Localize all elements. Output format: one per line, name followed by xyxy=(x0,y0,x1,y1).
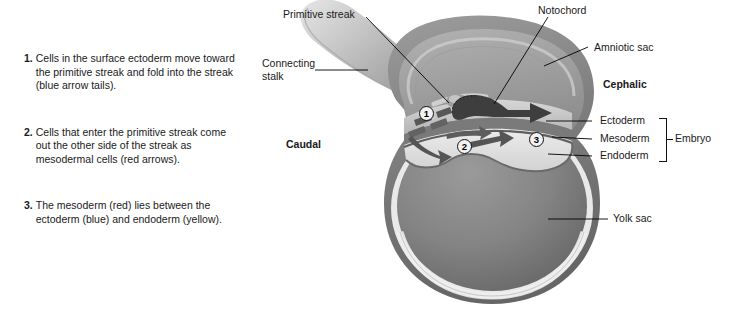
label-primitive-streak: Primitive streak xyxy=(283,8,355,21)
label-notochord: Notochord xyxy=(538,4,586,17)
caption-text-1: Cells in the surface ectoderm move towar… xyxy=(36,52,242,93)
label-endoderm: Endoderm xyxy=(600,149,648,162)
label-mesoderm: Mesoderm xyxy=(600,132,650,145)
caption-item-2: 2. Cells that enter the primitive streak… xyxy=(24,126,242,167)
caption-text-2: Cells that enter the primitive streak co… xyxy=(36,126,242,167)
label-connecting-stalk: Connecting stalk xyxy=(262,57,332,82)
label-embryo: Embryo xyxy=(675,132,711,145)
caption-number-2: 2. xyxy=(24,126,33,167)
caption-number-3: 3. xyxy=(24,199,33,226)
marker-1: 1 xyxy=(419,106,434,121)
caption-text-3: The mesoderm (red) lies between the ecto… xyxy=(36,199,242,226)
caption-item-1: 1. Cells in the surface ectoderm move to… xyxy=(24,52,242,93)
figure-canvas: 1 2 3 1. Cells in the surface ectoderm m… xyxy=(0,0,729,315)
embryo-bracket xyxy=(659,118,667,162)
label-ectoderm: Ectoderm xyxy=(600,114,645,127)
caption-list: 1. Cells in the surface ectoderm move to… xyxy=(24,52,242,259)
label-amniotic-sac: Amniotic sac xyxy=(594,41,654,54)
label-caudal: Caudal xyxy=(286,138,321,151)
caption-item-3: 3. The mesoderm (red) lies between the e… xyxy=(24,199,242,226)
marker-2: 2 xyxy=(457,139,472,154)
caption-number-1: 1. xyxy=(24,52,33,93)
marker-3: 3 xyxy=(529,132,544,147)
embryo-bracket-tick xyxy=(666,139,673,140)
label-yolk-sac: Yolk sac xyxy=(613,212,652,225)
label-cephalic: Cephalic xyxy=(603,78,647,91)
